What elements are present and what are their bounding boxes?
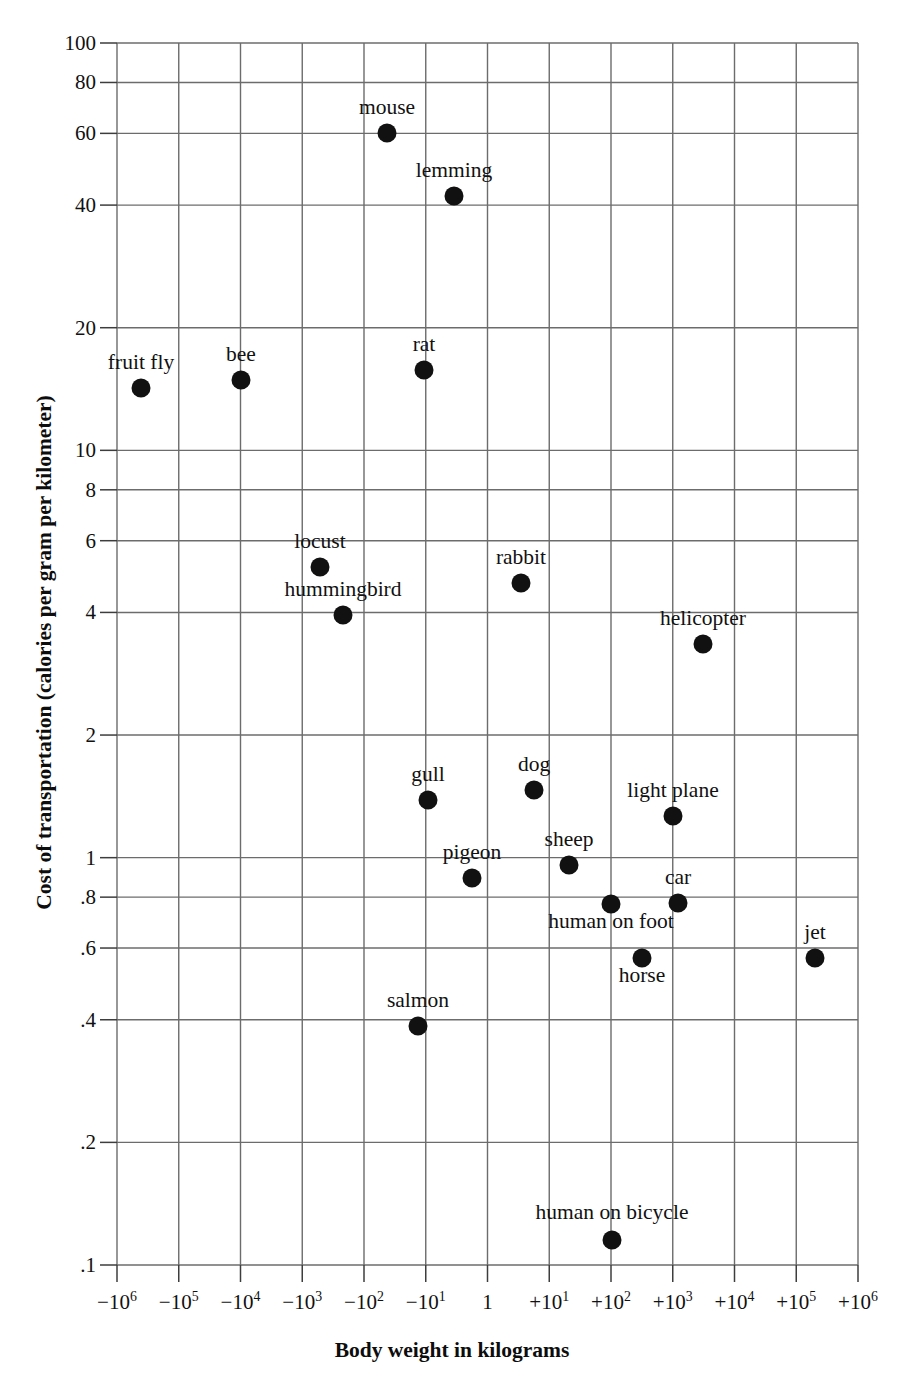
data-point[interactable] bbox=[311, 558, 330, 577]
data-point-group bbox=[132, 124, 825, 1250]
point-label: rat bbox=[413, 334, 436, 356]
x-tick-label: −102 bbox=[344, 1292, 384, 1313]
point-label: salmon bbox=[387, 990, 449, 1012]
y-tick-label: .2 bbox=[20, 1132, 96, 1153]
point-label: jet bbox=[804, 922, 826, 944]
x-tick-label: +103 bbox=[653, 1292, 693, 1313]
x-tick-label: +101 bbox=[529, 1292, 569, 1313]
x-tick-label: −103 bbox=[282, 1292, 322, 1313]
y-tick-label: 40 bbox=[20, 195, 96, 216]
data-point[interactable] bbox=[560, 856, 579, 875]
axis-tick-marks bbox=[100, 43, 858, 1282]
y-tick-label: 80 bbox=[20, 72, 96, 93]
data-point[interactable] bbox=[525, 781, 544, 800]
y-tick-label: .1 bbox=[20, 1255, 96, 1276]
data-point[interactable] bbox=[694, 635, 713, 654]
data-point[interactable] bbox=[409, 1017, 428, 1036]
point-label: rabbit bbox=[496, 547, 546, 569]
data-point[interactable] bbox=[334, 606, 353, 625]
chart-figure: 100806040201086421.8.6.4.2.1 −106−105−10… bbox=[0, 0, 904, 1394]
data-point[interactable] bbox=[512, 574, 531, 593]
data-point[interactable] bbox=[806, 949, 825, 968]
data-point[interactable] bbox=[463, 869, 482, 888]
y-tick-label: 60 bbox=[20, 123, 96, 144]
point-label: fruit fly bbox=[108, 352, 174, 374]
data-point[interactable] bbox=[378, 124, 397, 143]
point-label: hummingbird bbox=[284, 579, 401, 601]
x-tick-label: −104 bbox=[221, 1292, 261, 1313]
vertical-gridlines bbox=[117, 43, 858, 1265]
point-label: dog bbox=[518, 754, 550, 776]
x-tick-label: −105 bbox=[159, 1292, 199, 1313]
x-tick-label: +104 bbox=[715, 1292, 755, 1313]
point-label: light plane bbox=[627, 780, 718, 802]
point-label: human on bicycle bbox=[536, 1202, 689, 1224]
x-axis-title: Body weight in kilograms bbox=[0, 1338, 904, 1363]
point-label: lemming bbox=[416, 160, 492, 182]
point-label: bee bbox=[226, 344, 256, 366]
point-label: pigeon bbox=[443, 842, 502, 864]
point-label: helicopter bbox=[660, 608, 746, 630]
x-tick-label: −101 bbox=[406, 1292, 446, 1313]
data-point[interactable] bbox=[132, 379, 151, 398]
y-axis-title: Cost of transportation (calories per gra… bbox=[32, 373, 57, 933]
data-point[interactable] bbox=[415, 361, 434, 380]
point-label: locust bbox=[294, 531, 345, 553]
x-tick-label: +105 bbox=[776, 1292, 816, 1313]
x-tick-label: +106 bbox=[838, 1292, 878, 1313]
y-tick-label: .6 bbox=[20, 938, 96, 959]
y-tick-label: .4 bbox=[20, 1009, 96, 1030]
point-label: human on foot bbox=[548, 911, 673, 933]
data-point[interactable] bbox=[232, 371, 251, 390]
y-tick-label: 100 bbox=[20, 33, 96, 54]
point-label: horse bbox=[619, 965, 666, 987]
x-tick-label: −106 bbox=[97, 1292, 137, 1313]
y-tick-label: 20 bbox=[20, 317, 96, 338]
x-tick-label: +102 bbox=[591, 1292, 631, 1313]
point-label: sheep bbox=[545, 829, 594, 851]
point-label: car bbox=[665, 867, 691, 889]
data-point[interactable] bbox=[603, 1231, 622, 1250]
data-point[interactable] bbox=[445, 187, 464, 206]
point-label: mouse bbox=[359, 97, 415, 119]
scatter-plot-canvas bbox=[0, 0, 904, 1394]
x-tick-label: 1 bbox=[482, 1292, 493, 1313]
data-point[interactable] bbox=[664, 807, 683, 826]
point-label: gull bbox=[411, 764, 444, 786]
data-point[interactable] bbox=[419, 791, 438, 810]
